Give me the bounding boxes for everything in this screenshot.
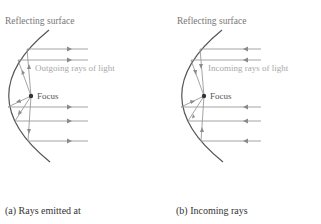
focus-label-a: Focus xyxy=(37,91,59,101)
panel-b: Reflecting surface xyxy=(177,16,289,162)
rays-label-a: Outgoing rays of light xyxy=(35,63,115,73)
caption-b: (b) Incoming rays reflected to focus xyxy=(176,183,258,224)
caption-b-line-1: (b) Incoming rays xyxy=(176,205,258,216)
focus-label-b: Focus xyxy=(210,91,232,101)
focus-point-a xyxy=(29,94,33,98)
surface-label-a: Reflecting surface xyxy=(5,16,74,26)
surface-label-b: Reflecting surface xyxy=(177,16,246,26)
rays-label-b: Incoming rays of light xyxy=(208,63,289,73)
caption-a-line-1: (a) Rays emitted at xyxy=(5,205,91,216)
panel-a: Reflecting surface xyxy=(5,16,115,162)
focus-point-b xyxy=(202,94,206,98)
arrow-icons-right-a xyxy=(67,47,72,144)
arrow-icons-left-b xyxy=(243,47,248,144)
caption-a: (a) Rays emitted at focus are reflected … xyxy=(5,183,91,224)
